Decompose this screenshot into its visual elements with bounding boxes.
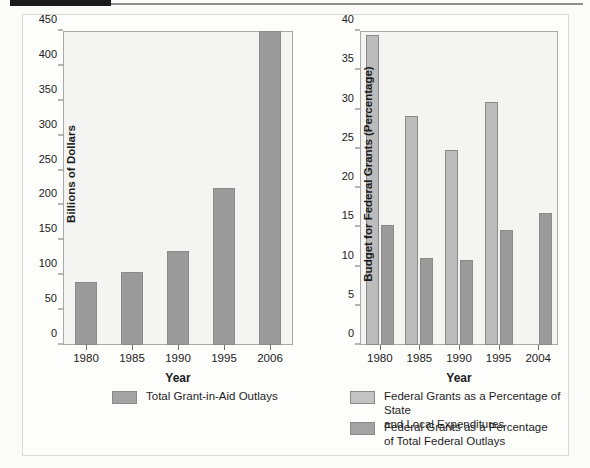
bar-slot: [479, 31, 519, 345]
y-tick-label: 200: [39, 187, 63, 199]
y-tick-label: 300: [39, 118, 63, 130]
y-axis-label-right: Budget for Federal Grants (Percentage): [362, 26, 374, 322]
y-tick-label: 20: [342, 170, 360, 182]
y-tick-label: 400: [39, 48, 63, 60]
y-tick-label: 100: [39, 257, 63, 269]
y-axis-label-left: Billions of Dollars: [65, 54, 77, 294]
y-tick-label: 5: [348, 288, 360, 300]
header-thin-rule: [111, 3, 583, 5]
x-tick-label-1985: 1985: [119, 352, 145, 364]
bar-slot: [439, 31, 479, 345]
x-tick-mark: [380, 345, 381, 350]
bar-1995-s0: [213, 188, 235, 345]
y-tick-mark: [355, 226, 360, 227]
legend-label-state-local-line1: Federal Grants as a Percentage of State: [384, 390, 560, 416]
y-tick-label: 450: [39, 13, 63, 25]
bar-group-left: [63, 31, 293, 345]
bar-1995-s0: [485, 102, 498, 345]
header-black-rule: [10, 0, 111, 6]
x-axis-label-right: Year: [360, 371, 558, 385]
legend-label-federal-outlays: Federal Grants as a Percentage of Total …: [384, 420, 548, 448]
y-tick-label: 35: [342, 52, 360, 64]
x-tick-label-1980: 1980: [73, 352, 99, 364]
legend-label-federal-outlays-line2: of Total Federal Outlays: [384, 435, 505, 447]
y-tick-mark: [58, 134, 63, 135]
y-tick-mark: [58, 274, 63, 275]
y-tick-mark: [58, 30, 63, 31]
x-tick-mark: [538, 345, 539, 350]
bar-slot: [400, 31, 440, 345]
bar-slot: [247, 31, 293, 345]
x-tick-mark: [459, 345, 460, 350]
y-tick-mark: [58, 239, 63, 240]
chart-total-grant-in-aid-outlays: Billions of Dollars Year 050100150200250…: [63, 31, 293, 345]
y-tick-mark: [58, 344, 63, 345]
chart-federal-grants-percentage: Budget for Federal Grants (Percentage) Y…: [360, 31, 558, 345]
bar-slot: [109, 31, 155, 345]
y-tick-mark: [58, 169, 63, 170]
x-tick-label-1990: 1990: [165, 352, 191, 364]
legend-right-federal-outlays: Federal Grants as a Percentage of Total …: [350, 420, 565, 448]
bar-1980-s0: [75, 282, 97, 345]
x-tick-mark: [499, 345, 500, 350]
bar-1990-s0: [167, 251, 189, 345]
y-tick-label: 150: [39, 222, 63, 234]
y-tick-label: 0: [51, 327, 63, 339]
x-axis-label-left: Year: [63, 371, 293, 385]
y-tick-label: 250: [39, 153, 63, 165]
y-tick-label: 40: [342, 13, 360, 25]
bar-1985-s1: [420, 258, 433, 345]
legend-swatch-state-local: [350, 391, 375, 404]
x-tick-label-2004: 2004: [525, 352, 551, 364]
bar-1980-s1: [381, 225, 394, 345]
x-tick-mark: [270, 345, 271, 350]
y-tick-label: 50: [45, 292, 63, 304]
bar-slot: [155, 31, 201, 345]
bar-1985-s0: [121, 272, 143, 345]
y-tick-label: 25: [342, 131, 360, 143]
x-tick-mark: [178, 345, 179, 350]
bar-group-right: [360, 31, 558, 345]
bar-2004-s1: [539, 213, 552, 345]
y-tick-mark: [58, 204, 63, 205]
legend-swatch-total-outlays: [112, 391, 137, 404]
x-tick-label-2006: 2006: [257, 352, 283, 364]
legend-left: Total Grant-in-Aid Outlays: [112, 389, 278, 404]
y-tick-label: 30: [342, 92, 360, 104]
bar-1990-s0: [445, 150, 458, 345]
y-tick-label: 0: [348, 327, 360, 339]
x-tick-label-1990: 1990: [446, 352, 472, 364]
y-tick-mark: [355, 108, 360, 109]
y-tick-mark: [355, 344, 360, 345]
legend-label-federal-outlays-line1: Federal Grants as a Percentage: [384, 421, 548, 433]
y-tick-mark: [355, 30, 360, 31]
y-tick-mark: [58, 309, 63, 310]
bar-1985-s0: [405, 116, 418, 345]
x-tick-mark: [224, 345, 225, 350]
x-tick-label-1985: 1985: [407, 352, 433, 364]
y-tick-mark: [355, 187, 360, 188]
bar-slot: [201, 31, 247, 345]
y-tick-label: 350: [39, 83, 63, 95]
y-tick-mark: [58, 99, 63, 100]
bar-1995-s1: [500, 230, 513, 345]
x-tick-label-1980: 1980: [367, 352, 393, 364]
legend-swatch-federal-outlays: [350, 422, 375, 435]
y-tick-mark: [58, 64, 63, 65]
x-tick-mark: [86, 345, 87, 350]
x-tick-label-1995: 1995: [211, 352, 237, 364]
y-tick-mark: [355, 304, 360, 305]
legend-label-total-outlays: Total Grant-in-Aid Outlays: [146, 389, 278, 403]
y-tick-label: 10: [342, 249, 360, 261]
figure-page: Billions of Dollars Year 050100150200250…: [0, 0, 590, 468]
bar-slot: [518, 31, 558, 345]
y-tick-mark: [355, 265, 360, 266]
x-tick-mark: [132, 345, 133, 350]
bar-1990-s1: [460, 260, 473, 345]
bar-2006-s0: [259, 31, 281, 345]
y-tick-label: 15: [342, 209, 360, 221]
x-tick-label-1995: 1995: [486, 352, 512, 364]
y-tick-mark: [355, 69, 360, 70]
y-tick-mark: [355, 147, 360, 148]
x-tick-mark: [419, 345, 420, 350]
